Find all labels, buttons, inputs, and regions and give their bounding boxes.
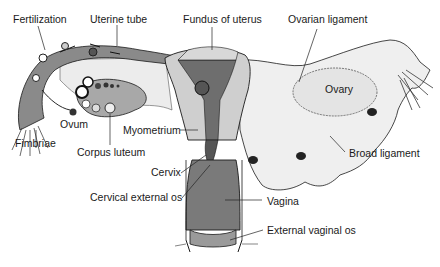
label-cervical-external-os: Cervical external os [90, 192, 182, 203]
vaginal-orifice [190, 230, 236, 247]
ovum [70, 109, 77, 116]
label-corpus-luteum: Corpus luteum [77, 147, 145, 158]
label-myometrium: Myometrium [123, 125, 181, 136]
reproductive-anatomy-illustration [0, 0, 440, 267]
label-external-vaginal-os: External vaginal os [267, 225, 356, 236]
label-broad-ligament: Broad ligament [349, 148, 420, 159]
label-vagina: Vagina [267, 196, 299, 207]
vagina [186, 160, 240, 230]
label-ovarian-ligament: Ovarian ligament [288, 14, 367, 25]
label-fimbriae: Fimbriae [15, 138, 56, 149]
label-uterine-tube: Uterine tube [90, 14, 147, 25]
label-fertilization: Fertilization [13, 14, 67, 25]
label-cervix: Cervix [151, 167, 181, 178]
label-ovum: Ovum [60, 119, 88, 130]
label-ovary: Ovary [325, 84, 353, 95]
label-fundus-of-uterus: Fundus of uterus [183, 14, 262, 25]
